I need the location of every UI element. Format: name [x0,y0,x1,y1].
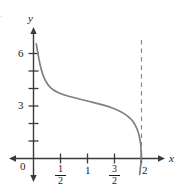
origin-label: 0 [20,161,26,172]
fraction-numerator: 3 [109,164,120,175]
fraction-denominator: 2 [55,175,66,187]
x-axis-label: x [169,153,174,164]
x-tick-label-three-halves: 3 2 [109,164,120,186]
x-tick-label-two: 2 [142,165,148,176]
y-tick-label-6: 6 [18,48,24,59]
x-tick-label-one: 1 [85,165,91,176]
y-tick-label-3: 3 [18,100,24,111]
x-tick-label-one-half: 1 2 [55,164,66,186]
figure-canvas: . [0,0,180,194]
curve-path [36,44,141,175]
fraction-numerator: 1 [55,164,66,175]
fraction-denominator: 2 [109,175,120,187]
y-axis-label: y [28,13,33,24]
